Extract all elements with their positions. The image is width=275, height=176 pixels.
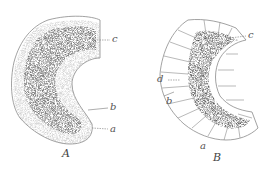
panel-a-label-a: a [110, 124, 116, 134]
panel-b-label-c: c [248, 30, 254, 40]
panel-a-label-b: b [110, 102, 116, 112]
panel-b-label-d: d [157, 74, 163, 84]
panel-b-caption: B [213, 152, 221, 163]
panel-a [12, 16, 110, 144]
panel-b-label-b: b [166, 96, 172, 106]
panel-a-label-c: c [112, 34, 118, 44]
panel-b [160, 19, 258, 140]
panel-b-label-a: a [200, 141, 206, 151]
figure: c b a A c d b a B [0, 0, 275, 176]
figure-drawing [0, 0, 275, 176]
panel-a-caption: A [62, 148, 70, 159]
